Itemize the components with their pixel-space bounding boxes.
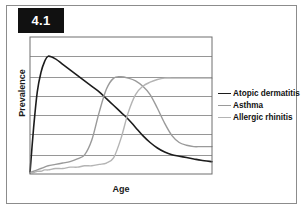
legend-item-label: Allergic rhinitis: [233, 112, 293, 123]
legend-line-swatch-icon: [218, 105, 231, 106]
legend-item[interactable]: Asthma: [218, 100, 300, 111]
legend-item[interactable]: Atopic dermatitis: [218, 88, 300, 99]
chart: Prevalence Age Atopic dermatitisAsthmaAl…: [0, 0, 308, 213]
legend-item-label: Atopic dermatitis: [233, 88, 300, 99]
figure-container: 4.1 Prevalence Age Atopic dermatitisAsth…: [0, 0, 308, 213]
chart-legend: Atopic dermatitisAsthmaAllergic rhinitis: [218, 88, 300, 124]
plot-background: [30, 37, 212, 174]
legend-line-swatch-icon: [218, 93, 231, 94]
legend-line-swatch-icon: [218, 117, 231, 118]
x-axis-label: Age: [30, 184, 212, 194]
legend-item[interactable]: Allergic rhinitis: [218, 112, 300, 123]
legend-item-label: Asthma: [233, 100, 263, 111]
y-axis-label: Prevalence: [17, 53, 27, 133]
